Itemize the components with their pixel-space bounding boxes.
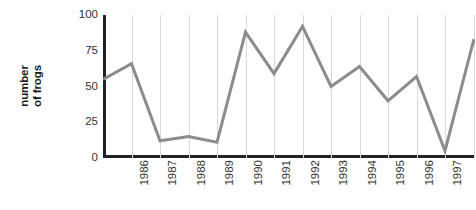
y-tick-label: 50 <box>68 81 98 92</box>
y-axis-tick-labels: 1007550250 <box>66 0 98 210</box>
y-tick-label: 100 <box>68 9 98 20</box>
y-tick-label: 75 <box>68 45 98 56</box>
line-chart: number of frogs 1007550250 1986198719881… <box>0 0 476 210</box>
series-line-number-of-frogs <box>103 15 475 158</box>
y-tick-label: 25 <box>68 116 98 127</box>
x-tick-label: 1992 <box>309 160 323 204</box>
x-tick-label: 1986 <box>138 160 152 204</box>
y-axis-title-line-1: number <box>18 46 31 126</box>
x-tick-label: 1991 <box>280 160 294 204</box>
x-tick-label: 1988 <box>195 160 209 204</box>
y-axis-title: number of frogs <box>18 46 44 126</box>
x-tick-label: 1994 <box>366 160 380 204</box>
x-axis-tick-labels: 1986198719881989199019911992199319941995… <box>103 160 475 210</box>
x-tick-label: 1990 <box>252 160 266 204</box>
y-axis-title-line-2: of frogs <box>31 46 44 126</box>
plot-area <box>103 15 475 158</box>
series-polyline <box>103 26 475 150</box>
x-tick-label: 1989 <box>223 160 237 204</box>
x-tick-label: 1997 <box>451 160 465 204</box>
x-tick-label: 1993 <box>337 160 351 204</box>
y-tick-label: 0 <box>68 152 98 163</box>
x-tick-label: 1995 <box>394 160 408 204</box>
x-tick-label: 1996 <box>423 160 437 204</box>
x-tick-label: 1987 <box>166 160 180 204</box>
